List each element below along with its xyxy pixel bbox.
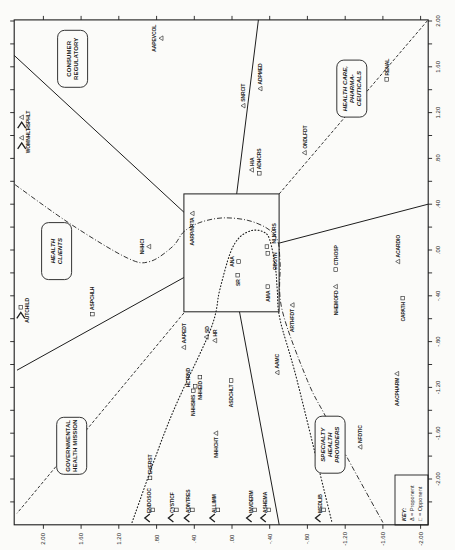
region-label-line: HEALTH CARE, (342, 66, 348, 112)
region-label-line: SPECIALTY (320, 427, 326, 462)
data-point: SNRCIT (240, 84, 246, 108)
proponent-triangle-icon (213, 338, 217, 343)
opponent-square-icon (19, 306, 23, 310)
point-label: CYSTICF (169, 492, 175, 513)
y-axis-tick-label: 1.20 (116, 532, 122, 544)
data-point: HR (212, 329, 218, 343)
region-label-line: HEALTH (50, 238, 56, 263)
point-label: HLTPND (185, 368, 191, 388)
offscale-arrow-icon (184, 514, 189, 522)
data-point: NHHSMS (190, 389, 196, 416)
data-point: ENDOSOC (145, 488, 155, 522)
point-label: NHEMOFD (333, 290, 339, 315)
point-label: RENAL (384, 59, 390, 76)
y-axis-tick-label: .40 (191, 534, 197, 543)
data-point: AMA (265, 285, 271, 302)
point-label: MEDLIB (317, 494, 323, 513)
x-axis-tick-label: 1.20 (435, 106, 441, 118)
data-point: NFDTIC (357, 425, 363, 450)
proponent-triangle-icon (275, 370, 279, 375)
boundary-solid-consumer-clients (14, 55, 184, 212)
point-label: NLNURS (271, 223, 277, 244)
data-point: RENAL (384, 59, 390, 82)
boundary-solid-lower (240, 312, 280, 525)
y-axis-tick-label: 2.00 (40, 532, 46, 544)
data-point: ASHEMA (261, 491, 271, 522)
point-label: AAPEVCOL (151, 25, 157, 52)
proponent-triangle-icon (358, 445, 362, 450)
data-point: CYSTICF (168, 492, 178, 522)
legend-opponent: □ = Opponent (417, 486, 423, 521)
x-axis-tick-label: 1.60 (435, 60, 441, 72)
legend-title: KEY: (401, 508, 407, 521)
region-label-line: REGULATORY (73, 38, 79, 80)
data-point: ACARDIO (395, 235, 401, 264)
point-label: ASPCHLH (89, 286, 95, 310)
point-label: ALLIMM (211, 494, 217, 513)
point-label: AACPHARM (394, 378, 400, 406)
point-label: ANA (229, 256, 235, 267)
region-health-clients: HEALTHCLIENTS (42, 223, 72, 280)
data-point: AAPEDT (181, 323, 187, 349)
x-axis-tick-label: -.80 (435, 336, 441, 347)
opponent-square-icon (266, 285, 270, 289)
data-point: ONDLFDT (302, 125, 308, 155)
data-point: AACPHARM (394, 371, 400, 406)
data-point: ADPMED (257, 63, 263, 91)
proponent-triangle-icon (250, 168, 254, 173)
point-label: NHHSMS (190, 394, 196, 416)
proponent-triangle-icon (258, 86, 262, 91)
data-point: ALLIMM (210, 494, 220, 522)
point-label: AAMC (274, 353, 280, 368)
region-labels: CONSUMERREGULATORYHEALTHCLIENTSGOVERNMEN… (42, 30, 367, 474)
data-point: NHHCHT (213, 431, 219, 458)
offscale-arrow-icon (247, 514, 252, 522)
point-label: AARP/NRTA (189, 217, 195, 246)
proponent-triangle-icon (19, 115, 23, 120)
region-label-line: HEALTH MISSION (72, 420, 78, 472)
region-governmental-health-mission: GOVERNMENTALHEALTH MISSION (57, 417, 87, 474)
data-point: AUTCHILD (17, 297, 30, 322)
offscale-arrow-icon (261, 514, 266, 522)
opponent-square-icon (91, 312, 95, 316)
data-point: OBGYN (266, 252, 278, 271)
point-label: HIA (249, 157, 255, 166)
data-point: AARP/NRTA (189, 211, 195, 245)
data-point: AAMC (274, 353, 280, 374)
point-label: NHHEID (197, 381, 203, 400)
y-axis-tick-label: -2.00 (418, 531, 424, 545)
proponent-triangle-icon (302, 150, 306, 155)
data-point: HLTPND (185, 368, 197, 389)
data-point: HIA (249, 157, 255, 172)
boundary-dotted-specialty (132, 230, 332, 522)
proponent-triangle-icon (182, 345, 186, 350)
x-axis-tick-label: -1.60 (435, 426, 441, 440)
region-label-line: CLIENTS (57, 238, 63, 264)
offscale-arrow-icon (210, 514, 215, 522)
region-specialty-health-providers: SPECIALTYHEALTHPROVIDERS (315, 416, 345, 473)
x-axis-tick-label: .40 (435, 199, 441, 208)
data-point: NHHCI (139, 238, 151, 254)
point-label: ARTHFDT (289, 309, 295, 332)
x-axis-tick-label: -.40 (435, 290, 441, 301)
opponent-square-icon (258, 172, 262, 176)
point-label: ENDOSOC (146, 488, 152, 513)
data-point: NHHEID (197, 375, 203, 399)
boundary-solid-consumer-upper (237, 20, 259, 194)
data-point: NLNURS (265, 223, 277, 249)
point-label: HR (212, 329, 218, 337)
point-label: ONDLFDT (302, 125, 308, 148)
point-label: SR (235, 279, 241, 286)
point-label: OBGYN (272, 252, 278, 270)
offscale-arrow-icon (316, 514, 321, 522)
data-point: INVDERM (247, 491, 257, 522)
data-point: CTHOSP (333, 244, 339, 271)
proponent-triangle-icon (214, 431, 218, 436)
offscale-arrow-icon (168, 514, 173, 522)
data-point: ARTHFDT (289, 303, 295, 332)
offscale-arrow-icon (145, 514, 150, 522)
proponent-triangle-icon (333, 284, 337, 289)
proponent-triangle-icon (19, 136, 23, 141)
opponent-square-icon (266, 252, 270, 256)
point-label: ADHCRS (256, 148, 262, 170)
